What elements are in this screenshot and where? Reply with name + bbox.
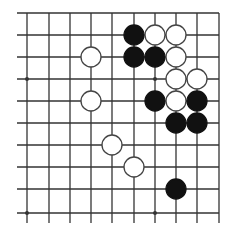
star-point — [153, 77, 157, 81]
white-stone — [124, 157, 144, 177]
star-point — [25, 211, 29, 215]
black-stone — [145, 47, 165, 67]
black-stone — [124, 47, 144, 67]
white-stone — [166, 69, 186, 89]
white-stone — [166, 91, 186, 111]
white-stone — [81, 91, 101, 111]
white-stone — [81, 47, 101, 67]
black-stone — [187, 91, 207, 111]
white-stone — [145, 25, 165, 45]
black-stone — [166, 113, 186, 133]
stones — [81, 25, 207, 199]
white-stone — [187, 69, 207, 89]
black-stone — [166, 179, 186, 199]
black-stone — [187, 113, 207, 133]
black-stone — [124, 25, 144, 45]
star-point — [153, 211, 157, 215]
go-board[interactable] — [0, 0, 233, 237]
white-stone — [102, 135, 122, 155]
white-stone — [166, 25, 186, 45]
white-stone — [166, 47, 186, 67]
star-point — [25, 77, 29, 81]
black-stone — [145, 91, 165, 111]
